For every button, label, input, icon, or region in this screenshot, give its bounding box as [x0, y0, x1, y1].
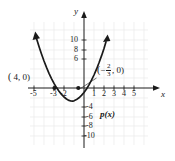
left-intercept-value: 4, 0) [14, 72, 31, 82]
y-tick-8: 8 [74, 46, 78, 54]
x-axis-label: x [161, 90, 165, 99]
graph-figure: 10 8 6 -4 -6 -8 -10 -5 -3 -2 1 2 3 4 5 y… [0, 0, 175, 161]
x-tick-minus-2: -2 [60, 90, 67, 98]
y-tick-10: 10 [70, 36, 78, 44]
y-tick-6: 6 [74, 55, 78, 63]
curve-label-px: p(x) [100, 110, 115, 119]
right-intercept-label: (−23, 0) [97, 63, 124, 79]
left-intercept-label: ( 4, 0) [8, 72, 30, 82]
x-tick-4: 4 [122, 90, 126, 98]
y-axis-label: y [74, 7, 78, 16]
fraction-denominator: 3 [106, 70, 112, 78]
fraction-numerator: 2 [106, 63, 112, 70]
y-tick-minus-6: -6 [86, 113, 93, 121]
left-intercept-paren: ( [8, 71, 11, 82]
right-intercept-minus: − [100, 65, 105, 75]
x-axis-arrow [153, 85, 160, 91]
y-tick-minus-8: -8 [86, 122, 93, 130]
fraction-two-thirds: 23 [106, 63, 112, 79]
x-tick-1: 1 [92, 90, 96, 98]
right-intercept-close: , 0) [112, 65, 124, 75]
x-tick-minus-5: -5 [30, 90, 37, 98]
x-tick-5: 5 [132, 90, 136, 98]
x-tick-3: 3 [112, 90, 116, 98]
x-tick-minus-3: -3 [50, 90, 57, 98]
y-tick-minus-4: -4 [86, 103, 93, 111]
y-axis-arrow [81, 11, 87, 18]
y-tick-minus-10: -10 [84, 132, 95, 140]
x-tick-2: 2 [102, 90, 106, 98]
intercept-dot-right [76, 86, 80, 90]
